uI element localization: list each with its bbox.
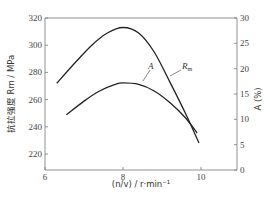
y-right-tick-label: 15: [240, 89, 250, 99]
y-left-tick-label: 240: [29, 122, 43, 132]
y-right-tick-label: 20: [240, 64, 250, 74]
series-a-label: A: [147, 61, 154, 71]
y-left-tick-label: 280: [29, 67, 43, 77]
y-right-tick-label: 30: [240, 13, 250, 23]
y-right-tick-label: 0: [240, 165, 245, 175]
plot-frame: [45, 18, 237, 170]
series-rm-label: Rm: [181, 61, 193, 72]
y-axis-right: 051015202530: [234, 13, 250, 175]
y-left-tick-label: 260: [29, 95, 43, 105]
y-axis-right-title: A (%): [253, 87, 263, 110]
x-axis-title: (n/v) / r·min⁻¹: [112, 179, 170, 189]
y-right-tick-label: 10: [240, 114, 250, 124]
y-left-tick-label: 220: [29, 149, 43, 159]
x-tick-label: 10: [197, 172, 207, 182]
y-right-tick-label: 5: [240, 140, 245, 150]
series-rm-line: [57, 28, 199, 144]
y-left-tick-label: 300: [29, 40, 43, 50]
series-a-leader: [143, 70, 150, 81]
x-tick-label: 6: [43, 172, 48, 182]
series-rm-label-sub: m: [188, 66, 193, 72]
y-right-tick-label: 25: [240, 38, 250, 48]
chart-canvas: 220240260280300320 051015202530 6810 A R…: [0, 0, 270, 208]
y-left-tick-label: 320: [29, 13, 43, 23]
y-axis-left-title: 抗拉强度 Rm / MPa: [6, 55, 16, 133]
series-a-line: [66, 83, 197, 133]
series-rm-leader: [170, 70, 181, 76]
